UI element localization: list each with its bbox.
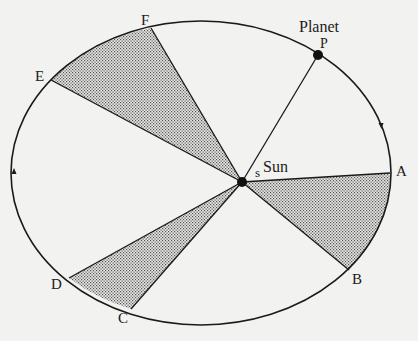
point-label-B: B xyxy=(352,271,362,287)
sun-label: Sun xyxy=(263,158,288,175)
sector-EF xyxy=(51,28,242,182)
planet-label: Planet xyxy=(299,18,340,35)
point-label-E: E xyxy=(35,68,44,84)
sun-marker xyxy=(237,177,247,187)
kepler-orbit-diagram: Sun s Planet P ABCDEF xyxy=(0,0,418,341)
point-label-C: C xyxy=(118,310,128,326)
point-label-F: F xyxy=(141,12,149,28)
point-label-A: A xyxy=(396,163,407,179)
shaded-sectors xyxy=(51,28,390,309)
point-label-D: D xyxy=(51,276,62,292)
sector-CD xyxy=(69,182,242,309)
direction-arrow-left-icon xyxy=(12,168,17,174)
sector-AB xyxy=(242,173,390,270)
planet-marker xyxy=(313,50,323,60)
planet-point-p-label: P xyxy=(320,36,328,51)
focus-s-label: s xyxy=(255,165,260,180)
